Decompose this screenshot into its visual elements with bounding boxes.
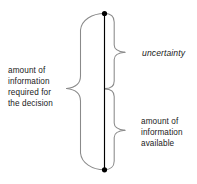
right-brace-lower-top-path: [105, 89, 125, 130]
left-brace-upper-path: [67, 14, 105, 89]
uncertainty-label: uncertainty: [142, 48, 185, 59]
axis-top-dot-icon: [102, 11, 107, 16]
right-brace-upper: [105, 14, 126, 89]
diagram-canvas: amount of information required for the d…: [0, 0, 197, 184]
right-brace-upper-top-path: [105, 14, 126, 53]
information-available-label: amount of information available: [141, 116, 183, 149]
right-brace-upper-bottom-path: [105, 52, 125, 88]
right-brace-lower-bottom-path: [105, 130, 126, 170]
left-brace-lower-path: [67, 89, 105, 170]
left-brace: [67, 14, 105, 170]
left-brace-label: amount of information required for the d…: [8, 65, 53, 109]
axis-bottom-dot-icon: [102, 167, 107, 172]
right-brace-lower: [105, 89, 126, 170]
